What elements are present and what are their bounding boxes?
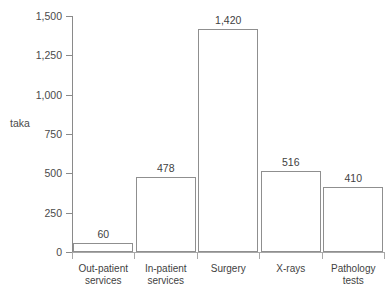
bar-value-surgery: 1,420 bbox=[197, 15, 260, 26]
bar-value-out-patient-services: 60 bbox=[72, 229, 135, 240]
x-axis-tick-3 bbox=[259, 253, 260, 259]
y-axis-tick-label-1500: 1,500 bbox=[36, 11, 62, 21]
x-axis-label-line-2: services bbox=[68, 275, 139, 287]
bar-chart-figure: 1,500 1,250 1,000 750 500 250 0 taka 60 … bbox=[0, 0, 387, 308]
y-axis-tick-500 bbox=[66, 173, 72, 174]
x-axis-tick-1 bbox=[134, 253, 135, 259]
bar-pathology-tests bbox=[323, 187, 383, 252]
x-axis-label-line-1: Surgery bbox=[193, 263, 264, 275]
clipped-caption-text bbox=[8, 300, 379, 308]
bar-out-patient-services bbox=[73, 243, 133, 252]
x-axis-label-surgery: Surgery bbox=[193, 263, 264, 275]
y-axis-tick-750 bbox=[66, 134, 72, 135]
x-axis-line bbox=[72, 252, 385, 253]
x-axis-tick-0 bbox=[72, 253, 73, 259]
y-axis-title: taka bbox=[10, 118, 30, 129]
x-axis-label-in-patient-services: In-patient services bbox=[131, 263, 202, 286]
x-axis-tick-2 bbox=[197, 253, 198, 259]
bar-x-rays bbox=[261, 171, 321, 252]
bar-value-x-rays: 516 bbox=[260, 157, 323, 168]
y-axis-tick-1500 bbox=[66, 16, 72, 17]
x-axis-label-pathology-tests: Pathology tests bbox=[318, 263, 387, 286]
bar-value-in-patient-services: 478 bbox=[135, 163, 198, 174]
y-axis-tick-label-0: 0 bbox=[56, 247, 62, 257]
plot-area: 1,500 1,250 1,000 750 500 250 0 taka 60 … bbox=[0, 0, 387, 308]
y-axis-tick-label-500: 500 bbox=[44, 168, 62, 178]
x-axis-label-line-2: tests bbox=[318, 275, 387, 287]
y-axis-tick-1000 bbox=[66, 95, 72, 96]
x-axis-tick-4 bbox=[322, 253, 323, 259]
x-axis-label-line-1: Out-patient bbox=[68, 263, 139, 275]
x-axis-label-out-patient-services: Out-patient services bbox=[68, 263, 139, 286]
y-axis-tick-label-250: 250 bbox=[44, 208, 62, 218]
x-axis-tick-5 bbox=[384, 253, 385, 259]
x-axis-label-x-rays: X-rays bbox=[256, 263, 327, 275]
x-axis-label-line-1: In-patient bbox=[131, 263, 202, 275]
bar-value-pathology-tests: 410 bbox=[322, 173, 385, 184]
y-axis-tick-250 bbox=[66, 213, 72, 214]
y-axis-tick-1250 bbox=[66, 55, 72, 56]
bar-surgery bbox=[198, 29, 258, 252]
y-axis-tick-label-1000: 1,000 bbox=[36, 90, 62, 100]
y-axis-tick-label-750: 750 bbox=[44, 129, 62, 139]
x-axis-label-line-1: Pathology bbox=[318, 263, 387, 275]
y-axis-tick-label-1250: 1,250 bbox=[36, 50, 62, 60]
bar-in-patient-services bbox=[136, 177, 196, 252]
y-axis-line bbox=[72, 16, 73, 253]
x-axis-label-line-2: services bbox=[131, 275, 202, 287]
x-axis-label-line-1: X-rays bbox=[256, 263, 327, 275]
